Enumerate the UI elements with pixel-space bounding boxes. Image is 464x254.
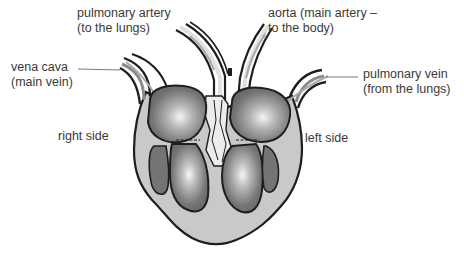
right-ventricle [170,144,208,211]
label-pulmonary-vein-line2: (from the lungs) [363,82,451,97]
label-left-side: left side [305,131,348,146]
label-vena-cava-line1: vena cava [11,60,73,75]
label-vena-cava-line2: (main vein) [11,75,73,90]
label-aorta-line1: aorta (main artery – [268,6,377,21]
left-atrium [230,88,290,142]
label-vena-cava: vena cava (main vein) [11,60,73,90]
label-pulmonary-vein-line1: pulmonary vein [363,67,451,82]
right-ventricle-flap [149,146,169,194]
label-pulmonary-artery-line2: (to the lungs) [77,21,171,36]
label-aorta-line2: to the body) [268,21,377,36]
right-atrium [148,86,206,143]
heart-diagram [0,0,464,254]
left-ventricle [222,144,263,212]
label-pulmonary-artery-line1: pulmonary artery [77,6,171,21]
label-pulmonary-artery: pulmonary artery (to the lungs) [77,6,171,36]
label-right-side: right side [58,129,109,144]
vena-cava-leader-line [78,69,120,70]
label-aorta: aorta (main artery – to the body) [268,6,377,36]
label-pulmonary-vein: pulmonary vein (from the lungs) [363,67,451,97]
